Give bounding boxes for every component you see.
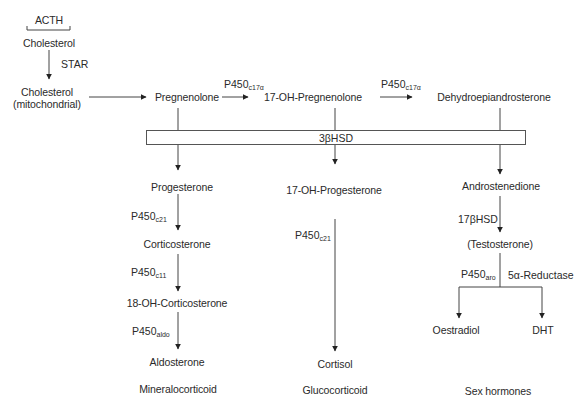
enzyme-p450c17-1: P450c17α: [224, 78, 264, 94]
enzyme-sub: aldo: [157, 331, 170, 338]
enzyme-base: P450: [295, 229, 320, 241]
node-17oh-pregnenolone: 17-OH-Pregnenolone: [264, 91, 362, 103]
enzyme-sub: c21: [320, 235, 331, 242]
node-testosterone: (Testosterone): [467, 238, 533, 250]
node-aldosterone: Aldosterone: [150, 356, 205, 368]
enzyme-p450c21-left: P450c21: [131, 210, 167, 226]
node-pregnenolone: Pregnenolone: [155, 91, 219, 103]
acth-bracket: [27, 26, 70, 30]
node-cholesterol: Cholesterol: [23, 37, 75, 49]
node-dht: DHT: [532, 324, 553, 336]
enzyme-p450c17-2: P450c17α: [381, 78, 421, 94]
enzyme-p450c21-middle: P450c21: [295, 229, 331, 245]
enzyme-base: P450: [224, 78, 249, 90]
node-androstenedione: Androstenedione: [462, 180, 540, 192]
enzyme-box-3bhsd: 3βHSD: [146, 130, 526, 145]
acth-label: ACTH: [35, 14, 63, 26]
node-cholesterol-mito-line2: (mitochondrial): [13, 98, 81, 110]
enzyme-sub: c11: [156, 272, 167, 279]
node-17oh-progesterone: 17-OH-Progesterone: [286, 184, 382, 196]
enzyme-box-label: 3βHSD: [147, 132, 525, 144]
enzyme-sub: aro: [486, 274, 496, 281]
enzyme-base: P450: [461, 268, 486, 280]
node-cholesterol-mito-line1: Cholesterol: [13, 86, 81, 98]
node-18oh-corticosterone: 18-OH-Corticosterone: [127, 297, 228, 309]
enzyme-sub: c17α: [406, 84, 421, 91]
node-cholesterol-mito: Cholesterol (mitochondrial): [13, 86, 81, 110]
node-oestradiol: Oestradiol: [433, 324, 480, 336]
enzyme-p450c11: P450c11: [131, 266, 166, 282]
node-dhea: Dehydroepiandrosterone: [437, 91, 550, 103]
class-glucocorticoid: Glucocorticoid: [302, 384, 367, 396]
enzyme-17bhsd: 17βHSD: [458, 213, 498, 225]
node-progesterone: Progesterone: [151, 181, 213, 193]
enzyme-5a-reductase: 5α-Reductase: [508, 269, 574, 281]
enzyme-p450aro: P450aro: [461, 268, 496, 284]
enzyme-sub: c21: [156, 216, 167, 223]
enzyme-star: STAR: [61, 58, 88, 70]
class-mineralocorticoid: Mineralocorticoid: [139, 383, 217, 395]
node-corticosterone: Corticosterone: [144, 238, 211, 250]
class-sex-hormones: Sex hormones: [465, 385, 532, 397]
node-cortisol: Cortisol: [318, 358, 353, 370]
enzyme-sub: c17α: [249, 84, 264, 91]
enzyme-base: P450: [132, 325, 157, 337]
enzyme-base: P450: [131, 210, 156, 222]
enzyme-base: P450: [131, 266, 156, 278]
enzyme-base: P450: [381, 78, 406, 90]
enzyme-p450aldo: P450aldo: [132, 325, 170, 341]
